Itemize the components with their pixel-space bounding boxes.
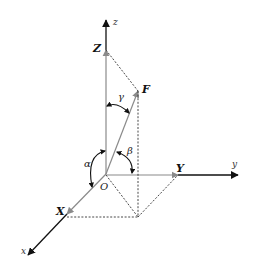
y-axis-label: y <box>231 159 238 169</box>
z-axis-label: z <box>112 17 118 27</box>
force-vector-F <box>106 91 138 174</box>
Y-component-label: Y <box>176 162 185 175</box>
component-vectors <box>67 50 178 214</box>
X-component-label: X <box>55 205 65 218</box>
origin-label: O <box>100 181 108 192</box>
alpha-label: α <box>84 158 91 169</box>
gamma-arc <box>107 105 129 113</box>
axes <box>28 20 238 255</box>
x-component-vector <box>67 174 106 214</box>
force-label-F: F <box>141 83 151 96</box>
force-direction-diagram: z y x Z Y X F γ α β O <box>0 0 254 271</box>
beta-label: β <box>126 145 133 156</box>
x-axis-line <box>28 214 67 255</box>
dashed-origin-to-foot <box>106 175 138 217</box>
labels: z y x Z Y X F γ α β O <box>21 17 238 256</box>
dashed-foot-to-Y <box>138 175 178 217</box>
gamma-label: γ <box>118 91 124 102</box>
construction-lines <box>67 50 178 217</box>
Z-component-label: Z <box>92 42 102 55</box>
x-axis-label: x <box>21 246 26 256</box>
dashed-Z-to-F <box>106 50 138 91</box>
